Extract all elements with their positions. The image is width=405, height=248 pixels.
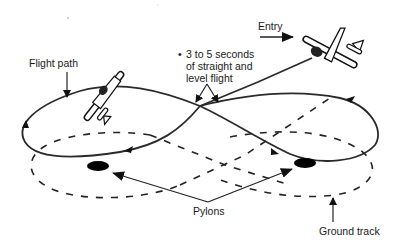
- ground-track-crossing: [150, 98, 330, 185]
- straight-level-note: • 3 to 5 seconds of straight and level f…: [186, 48, 276, 84]
- entry-label: Entry: [258, 20, 283, 32]
- flight-path-label: Flight path: [29, 57, 78, 69]
- ground-track-label: Ground track: [319, 225, 380, 237]
- direction-arrow-left-loop: [22, 120, 29, 128]
- direction-arrow-bottom-left: [124, 146, 133, 153]
- speck: [157, 4, 158, 5]
- airplane-icon: [298, 13, 369, 76]
- speck: [67, 17, 69, 19]
- pylons-callout-arrows: [113, 169, 292, 202]
- note-line-2: of straight and: [186, 60, 276, 72]
- eights-on-pylons-diagram: Flight path Entry • 3 to 5 seconds of st…: [0, 0, 405, 248]
- pylon-right: [294, 158, 316, 168]
- pylons: [87, 158, 316, 171]
- airplane-icon: [79, 67, 136, 130]
- note-bullet: •: [178, 48, 182, 60]
- note-line-1: 3 to 5 seconds: [186, 48, 276, 60]
- note-line-3: level flight: [186, 72, 276, 84]
- pylon-left: [87, 161, 109, 171]
- pylons-label: Pylons: [193, 205, 225, 217]
- direction-arrow-crossing: [271, 148, 279, 155]
